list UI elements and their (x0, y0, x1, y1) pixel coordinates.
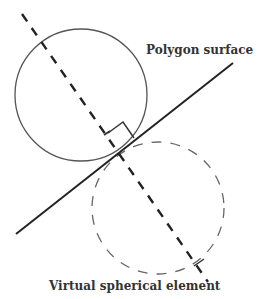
right-angle-marker (108, 122, 134, 138)
polygon-surface-label: Polygon surface (146, 43, 253, 57)
virtual-element-label: Virtual spherical element (49, 279, 220, 293)
virtual-sphere (92, 142, 224, 274)
polygon-surface-line (16, 63, 233, 234)
solid-sphere (15, 29, 147, 161)
